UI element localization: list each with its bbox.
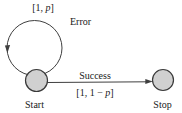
self-loop-error-arc [7, 21, 62, 76]
loop-prob-post: ] [51, 2, 54, 13]
transition-arrowhead-icon [145, 79, 153, 84]
state-start-label: Start [25, 99, 44, 110]
error-transition-label: Error [70, 16, 92, 27]
loop-probability-label: [1, p] [32, 2, 54, 13]
self-loop-arrowhead-icon [5, 45, 10, 53]
state-stop-label: Stop [153, 99, 171, 110]
transition-arrow-line [47, 82, 147, 83]
success-probability-label: [1, 1 − p] [76, 87, 113, 98]
success-prob-post: ] [110, 87, 113, 98]
loop-prob-pre: [1, [32, 2, 45, 13]
state-stop-node [153, 70, 174, 91]
success-transition-label: Success [79, 70, 111, 81]
state-diagram-figure: [1, p] Error Success [1, 1 − p] Start St… [0, 0, 182, 113]
success-prob-pre: [1, 1 − [76, 87, 105, 98]
state-diagram-canvas: [1, p] Error Success [1, 1 − p] Start St… [0, 0, 182, 113]
state-start-node [26, 70, 48, 92]
